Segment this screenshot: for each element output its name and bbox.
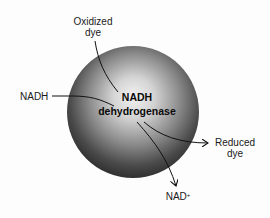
- oxidized-dye-label-line1: Oxidized: [68, 16, 118, 27]
- oxidized-dye-label-line2: dye: [68, 27, 118, 38]
- reduced-dye-label: Reduced dye: [210, 137, 260, 159]
- reduced-dye-label-line2: dye: [210, 148, 260, 159]
- nad-text: NAD: [166, 191, 187, 202]
- reduced-dye-label-line1: Reduced: [210, 137, 260, 148]
- nad-product-label: NAD+: [163, 191, 193, 202]
- nadh-input-label: NADH: [20, 91, 54, 102]
- enzyme-name-line2: dehydrogenase: [97, 106, 177, 117]
- oxidized-dye-label: Oxidized dye: [68, 16, 118, 38]
- nad-superscript: +: [187, 192, 191, 198]
- enzyme-name-line1: NADH: [112, 92, 162, 103]
- diagram-canvas: Oxidized dye NADH NADH dehydrogenase Red…: [0, 0, 270, 218]
